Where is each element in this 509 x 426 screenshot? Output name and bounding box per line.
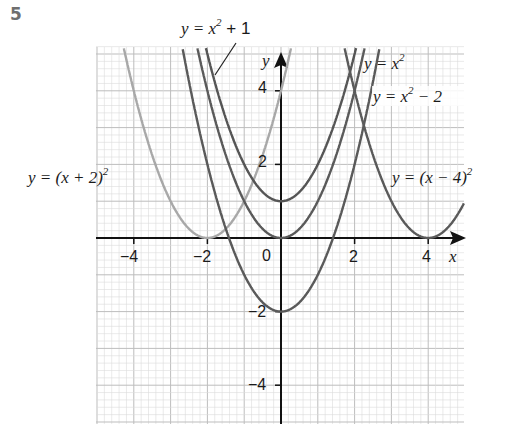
svg-text:y = x2 + 1: y = x2 + 1	[179, 16, 250, 38]
x-tick-label: −2	[193, 248, 211, 265]
chart-plot: −4 −2 0 2 4 4 2 −2 −4 x y y = x2 + 1 y =…	[0, 0, 509, 426]
curve--x-4-2	[345, 48, 464, 238]
label-x-plus-2-squared: y = (x + 2)2	[26, 165, 109, 187]
origin-label: 0	[262, 247, 271, 264]
x-tick-label: −4	[120, 248, 138, 265]
y-axis-label: y	[260, 51, 270, 70]
y-tick-label: 2	[258, 153, 267, 170]
svg-text:y = x2: y = x2	[362, 51, 405, 73]
y-tick-label: −4	[248, 376, 266, 393]
x-tick-label: 4	[422, 248, 431, 265]
y-tick-label: −2	[248, 303, 266, 320]
x-axis-label: x	[448, 247, 457, 266]
label-x-minus-4-squared: y = (x − 4)2	[390, 165, 473, 187]
svg-text:y = x2 − 2: y = x2 − 2	[371, 84, 443, 106]
x-tick-label: 2	[349, 248, 358, 265]
svg-text:y = (x − 4)2: y = (x − 4)2	[390, 165, 473, 187]
svg-text:y = (x + 2)2: y = (x + 2)2	[26, 165, 109, 187]
label-x2: y = x2	[362, 51, 405, 73]
y-tick-label: 4	[258, 79, 267, 96]
label-x2-plus-1: y = x2 + 1	[178, 12, 288, 75]
label-x2-minus-2: y = x2 − 2	[371, 84, 472, 106]
